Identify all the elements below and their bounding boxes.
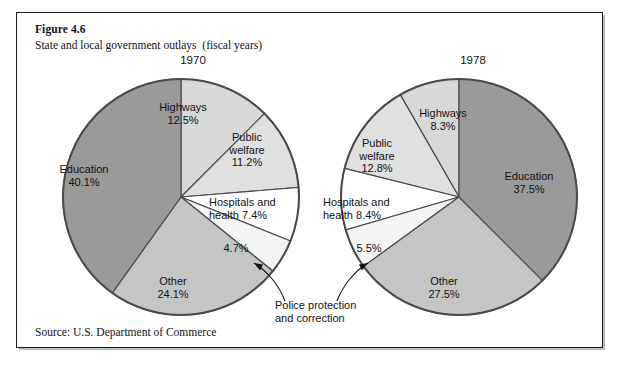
figure-frame: Figure 4.6 State and local government ou… [16,12,603,348]
pie-1978-label-hospitals: Hospitals and health 8.4% [323,196,423,221]
pie-1978-label-police: 5.5% [346,242,392,255]
pie-1970-label-highways: Highways 12.5% [141,101,225,126]
pie-1978-label-education: Education 37.5% [487,170,571,195]
source-note: Source: U.S. Department of Commerce [35,326,216,338]
pie-1970-label-public-welfare: Public welfare 11.2% [216,131,278,169]
police-protection-annotation: Police protection and correction [275,299,356,325]
pie-1978-label-other: Other 27.5% [409,275,479,300]
pie-1978-label-public-welfare: Public welfare 12.8% [346,137,408,175]
pie-1970-label-other: Other 24.1% [138,275,208,300]
pie-1970-label-education: Education 40.1% [42,163,126,188]
pie-1970-label-police: 4.7% [213,242,259,255]
charts-area: Highways 12.5% Public welfare 11.2% Hosp… [17,13,602,347]
pie-1978-label-highways: Highways 8.3% [401,107,485,132]
pie-1970-label-hospitals: Hospitals and health 7.4% [209,196,305,221]
